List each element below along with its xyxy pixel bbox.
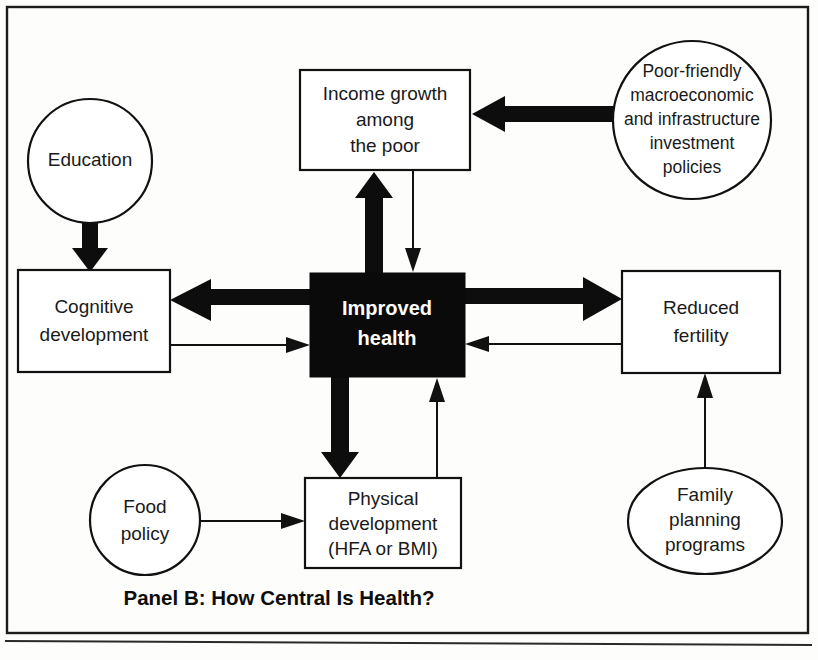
cognitive-development-label-line-1: Cognitive xyxy=(54,296,133,317)
reduced-fertility-label-line-1: Reduced xyxy=(663,297,739,318)
improved-health-label-line-2: health xyxy=(358,327,417,349)
node-cognitive-development[interactable]: Cognitive development xyxy=(18,270,170,372)
scan-edge-line xyxy=(5,641,812,645)
physical-development-label-line-1: Physical xyxy=(348,488,419,509)
food-policy-circle xyxy=(90,465,200,575)
node-income-growth-among-the-poor[interactable]: Income growth among the poor xyxy=(300,70,470,170)
education-label: Education xyxy=(48,149,133,170)
diagram-canvas: Education Income growth among the poor P… xyxy=(0,0,818,660)
node-food-policy[interactable]: Food policy xyxy=(90,465,200,575)
node-education[interactable]: Education xyxy=(28,99,152,223)
food-policy-label-line-2: policy xyxy=(121,523,170,544)
poor-friendly-policies-label-line-4: investment xyxy=(650,133,735,153)
cognitive-development-box xyxy=(18,270,170,372)
edge-improved-health-to-cognitive-development xyxy=(170,279,310,321)
physical-development-label-line-3: (HFA or BMI) xyxy=(328,538,438,559)
edge-cognitive-development-to-improved-health xyxy=(170,337,310,353)
node-improved-health[interactable]: Improved health xyxy=(310,273,465,377)
income-growth-label-line-2: among xyxy=(356,109,414,130)
income-growth-label-line-3: the poor xyxy=(350,135,420,156)
edge-reduced-fertility-to-improved-health xyxy=(465,336,622,352)
edge-food-policy-to-physical-development xyxy=(200,513,305,529)
node-physical-development[interactable]: Physical development (HFA or BMI) xyxy=(305,478,461,568)
food-policy-label-line-1: Food xyxy=(123,496,166,517)
edge-improved-health-to-reduced-fertility xyxy=(465,277,622,321)
edge-physical-development-to-improved-health xyxy=(429,378,445,478)
cognitive-development-label-line-2: development xyxy=(40,324,150,345)
edge-poor-friendly-policies-to-income-growth xyxy=(472,96,614,132)
family-planning-label-line-1: Family xyxy=(677,484,733,505)
edge-education-to-cognitive-development xyxy=(72,220,108,272)
poor-friendly-policies-label-line-5: policies xyxy=(663,157,722,177)
family-planning-label-line-2: planning xyxy=(669,509,741,530)
node-reduced-fertility[interactable]: Reduced fertility xyxy=(622,271,780,373)
reduced-fertility-box xyxy=(622,271,780,373)
poor-friendly-policies-label-line-2: macroeconomic xyxy=(630,85,754,105)
income-growth-label-line-1: Income growth xyxy=(323,83,448,104)
edge-family-planning-to-reduced-fertility xyxy=(697,373,713,468)
family-planning-label-line-3: programs xyxy=(665,534,745,555)
improved-health-box xyxy=(310,273,465,377)
node-family-planning-programs[interactable]: Family planning programs xyxy=(628,468,782,574)
physical-development-label-line-2: development xyxy=(329,513,439,534)
reduced-fertility-label-line-2: fertility xyxy=(674,325,729,346)
poor-friendly-policies-label-line-1: Poor-friendly xyxy=(642,61,741,81)
edge-income-growth-to-improved-health xyxy=(405,170,421,272)
improved-health-label-line-1: Improved xyxy=(342,297,432,319)
panel-title: Panel B: How Central Is Health? xyxy=(124,586,435,609)
figure-panel-b: Education Income growth among the poor P… xyxy=(0,0,818,660)
edge-improved-health-to-income-growth xyxy=(355,172,393,273)
poor-friendly-policies-label-line-3: and infrastructure xyxy=(624,109,760,129)
node-poor-friendly-policies[interactable]: Poor-friendly macroeconomic and infrastr… xyxy=(613,41,771,199)
edge-improved-health-to-physical-development xyxy=(321,377,359,478)
